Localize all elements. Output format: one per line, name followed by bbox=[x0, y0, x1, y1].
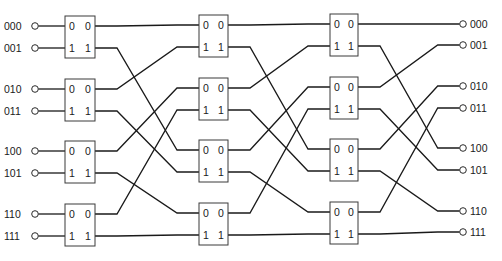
switch-input-port-label: 1 bbox=[203, 229, 209, 241]
output-label: 001 bbox=[470, 39, 488, 51]
switch-output-port-label: 0 bbox=[348, 18, 354, 30]
switch-output-port-label: 0 bbox=[218, 207, 224, 219]
switch-input-port-label: 0 bbox=[334, 143, 340, 155]
switch-input-port-label: 1 bbox=[334, 40, 340, 52]
switch-input-port-label: 1 bbox=[69, 167, 75, 179]
input-terminal-icon[interactable] bbox=[32, 86, 39, 93]
output-terminal-icon[interactable] bbox=[460, 42, 467, 49]
interconnect-wire bbox=[228, 47, 330, 149]
switch-box: 0011 bbox=[330, 14, 358, 56]
switch-output-port-label: 1 bbox=[85, 230, 91, 242]
switch-box: 0011 bbox=[65, 79, 95, 121]
switch-box: 0011 bbox=[330, 139, 358, 181]
switch-output-port-label: 1 bbox=[218, 229, 224, 241]
output-terminal-icon[interactable] bbox=[460, 21, 467, 28]
switch-input-port-label: 0 bbox=[203, 19, 209, 31]
output-terminal-icon[interactable] bbox=[460, 208, 467, 215]
switch-output-port-label: 1 bbox=[85, 42, 91, 54]
switch-output-port-label: 0 bbox=[218, 19, 224, 31]
input-terminal-icon[interactable] bbox=[32, 170, 39, 177]
switch-output-port-label: 0 bbox=[348, 81, 354, 93]
switch-output-port-label: 0 bbox=[348, 206, 354, 218]
switch-input-port-label: 0 bbox=[203, 82, 209, 94]
switch-box: 0011 bbox=[65, 141, 95, 183]
switch-box: 0011 bbox=[199, 203, 228, 245]
interconnect-wire bbox=[358, 108, 460, 212]
input-label: 111 bbox=[4, 230, 20, 242]
switch-input-port-label: 0 bbox=[69, 208, 75, 220]
switch-output-port-label: 1 bbox=[348, 40, 354, 52]
input-label: 011 bbox=[4, 105, 21, 117]
switch-input-port-label: 0 bbox=[203, 207, 209, 219]
interconnect-wire bbox=[228, 234, 330, 235]
switch-input-port-label: 1 bbox=[334, 228, 340, 240]
input-label: 010 bbox=[4, 83, 22, 95]
switch-box: 0011 bbox=[330, 77, 358, 119]
output-terminal-icon[interactable] bbox=[460, 229, 467, 236]
input-terminal-icon[interactable] bbox=[32, 233, 39, 240]
switch-output-port-label: 0 bbox=[85, 208, 91, 220]
input-terminal-icon[interactable] bbox=[32, 23, 39, 30]
switch-input-port-label: 0 bbox=[69, 145, 75, 157]
input-terminal-icon[interactable] bbox=[32, 108, 39, 115]
output-terminal-icon[interactable] bbox=[460, 105, 467, 112]
interconnect-wire bbox=[358, 232, 460, 234]
interconnect-wire bbox=[358, 46, 460, 148]
input-label: 001 bbox=[4, 42, 22, 54]
switch-input-port-label: 1 bbox=[69, 105, 75, 117]
switch-input-port-label: 0 bbox=[69, 83, 75, 95]
switches-layer: 0011001100110011001100110011001100110011… bbox=[65, 14, 358, 246]
switch-output-port-label: 0 bbox=[348, 143, 354, 155]
input-label: 110 bbox=[4, 208, 21, 220]
input-terminal-icon[interactable] bbox=[32, 45, 39, 52]
interconnect-wire bbox=[358, 45, 460, 87]
output-label: 000 bbox=[470, 18, 488, 30]
output-terminal-icon[interactable] bbox=[460, 145, 467, 152]
switch-input-port-label: 1 bbox=[69, 230, 75, 242]
output-terminal-icon[interactable] bbox=[460, 83, 467, 90]
switch-box: 0011 bbox=[199, 140, 228, 182]
switch-output-port-label: 1 bbox=[85, 105, 91, 117]
switch-output-port-label: 1 bbox=[348, 103, 354, 115]
switch-output-port-label: 0 bbox=[85, 145, 91, 157]
switch-input-port-label: 0 bbox=[334, 81, 340, 93]
omega-network-diagram: 0011001100110011001100110011001100110011… bbox=[0, 0, 502, 261]
switch-input-port-label: 0 bbox=[69, 20, 75, 32]
switch-input-port-label: 1 bbox=[203, 41, 209, 53]
switch-output-port-label: 1 bbox=[348, 228, 354, 240]
output-label: 101 bbox=[470, 164, 488, 176]
switch-box: 0011 bbox=[65, 204, 95, 246]
switch-input-port-label: 0 bbox=[334, 18, 340, 30]
interconnect-wire bbox=[228, 109, 330, 213]
switch-box: 0011 bbox=[65, 16, 95, 58]
output-label: 110 bbox=[470, 205, 487, 217]
switch-output-port-label: 0 bbox=[85, 83, 91, 95]
interconnect-wire bbox=[95, 25, 199, 26]
output-terminal-icon[interactable] bbox=[460, 167, 467, 174]
output-label: 010 bbox=[470, 80, 488, 92]
interconnect-wire bbox=[358, 171, 460, 211]
input-terminal-icon[interactable] bbox=[32, 148, 39, 155]
switch-box: 0011 bbox=[199, 15, 228, 57]
switch-input-port-label: 1 bbox=[203, 104, 209, 116]
interconnect-wire bbox=[228, 24, 330, 25]
interconnect-wire bbox=[228, 172, 330, 212]
switch-output-port-label: 0 bbox=[85, 20, 91, 32]
input-label: 101 bbox=[4, 167, 22, 179]
switch-input-port-label: 1 bbox=[334, 165, 340, 177]
interconnect-wire bbox=[95, 48, 199, 150]
output-label: 100 bbox=[470, 142, 488, 154]
switch-box: 0011 bbox=[199, 78, 228, 120]
switch-output-port-label: 0 bbox=[218, 82, 224, 94]
interconnect-wire bbox=[95, 47, 199, 89]
switch-output-port-label: 1 bbox=[218, 166, 224, 178]
switch-output-port-label: 0 bbox=[218, 144, 224, 156]
switch-input-port-label: 0 bbox=[203, 144, 209, 156]
switch-output-port-label: 1 bbox=[218, 104, 224, 116]
switch-input-port-label: 1 bbox=[69, 42, 75, 54]
interconnect-wire bbox=[95, 173, 199, 213]
switch-input-port-label: 0 bbox=[334, 206, 340, 218]
input-terminal-icon[interactable] bbox=[32, 211, 39, 218]
input-label: 000 bbox=[4, 20, 22, 32]
switch-box: 0011 bbox=[330, 202, 358, 244]
